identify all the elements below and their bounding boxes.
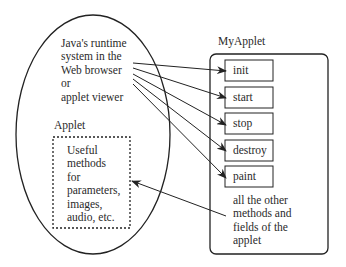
arrow-runtime-to-paint bbox=[133, 84, 226, 178]
runtime-line: applet viewer bbox=[61, 91, 127, 104]
useful-line: images, bbox=[67, 198, 120, 211]
method-destroy: destroy bbox=[233, 143, 267, 157]
useful-line: for bbox=[67, 171, 120, 184]
method-init: init bbox=[233, 63, 248, 77]
useful-line: methods bbox=[67, 157, 120, 170]
arrow-runtime-to-start bbox=[133, 68, 226, 98]
method-start: start bbox=[233, 90, 253, 104]
applet-label: Applet bbox=[54, 119, 85, 132]
arrow-runtime-to-stop bbox=[133, 74, 226, 125]
runtime-line: or bbox=[61, 77, 127, 90]
useful-line: audio, etc. bbox=[67, 211, 120, 224]
runtime-description: Java's runtime system in the Web browser… bbox=[61, 37, 127, 104]
applet-useful-methods: Useful methods for parameters, images, a… bbox=[67, 144, 120, 224]
other-line: methods and bbox=[233, 207, 291, 220]
method-paint: paint bbox=[233, 169, 256, 183]
arrow-runtime-to-destroy bbox=[133, 79, 226, 151]
arrow-myapplet-to-applet-methods bbox=[132, 181, 226, 216]
useful-line: Useful bbox=[67, 144, 120, 157]
runtime-line: system in the bbox=[61, 50, 127, 63]
diagram-canvas bbox=[0, 0, 346, 267]
runtime-line: Java's runtime bbox=[61, 37, 127, 50]
other-line: applet bbox=[233, 234, 291, 247]
other-line: fields of the bbox=[233, 221, 291, 234]
useful-line: parameters, bbox=[67, 184, 120, 197]
myapplet-title: MyApplet bbox=[218, 35, 265, 48]
myapplet-other-members: all the other methods and fields of the … bbox=[233, 194, 291, 248]
method-stop: stop bbox=[233, 116, 252, 130]
runtime-line: Web browser bbox=[61, 64, 127, 77]
arrow-runtime-to-init bbox=[133, 63, 226, 71]
other-line: all the other bbox=[233, 194, 291, 207]
